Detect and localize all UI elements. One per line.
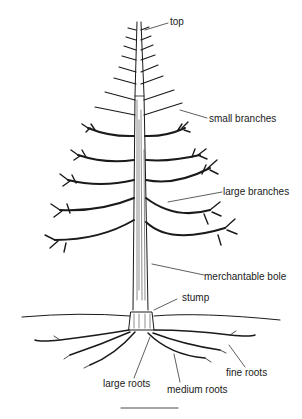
- large-branches: [55, 128, 225, 240]
- leader-lines: [134, 23, 245, 382]
- trunk: [133, 22, 148, 310]
- ground-line: [22, 314, 280, 320]
- small-branches: [95, 27, 182, 115]
- label-large-branches: large branches: [223, 187, 289, 197]
- label-top: top: [170, 17, 184, 27]
- label-large-roots: large roots: [103, 379, 150, 389]
- label-merchantable-bole: merchantable bole: [204, 272, 286, 282]
- label-medium-roots: medium roots: [167, 385, 228, 395]
- label-fine-roots: fine roots: [226, 368, 267, 378]
- label-stump: stump: [182, 293, 209, 303]
- stump: [129, 312, 154, 330]
- tree-diagram: [0, 0, 302, 419]
- label-small-branches: small branches: [209, 114, 276, 124]
